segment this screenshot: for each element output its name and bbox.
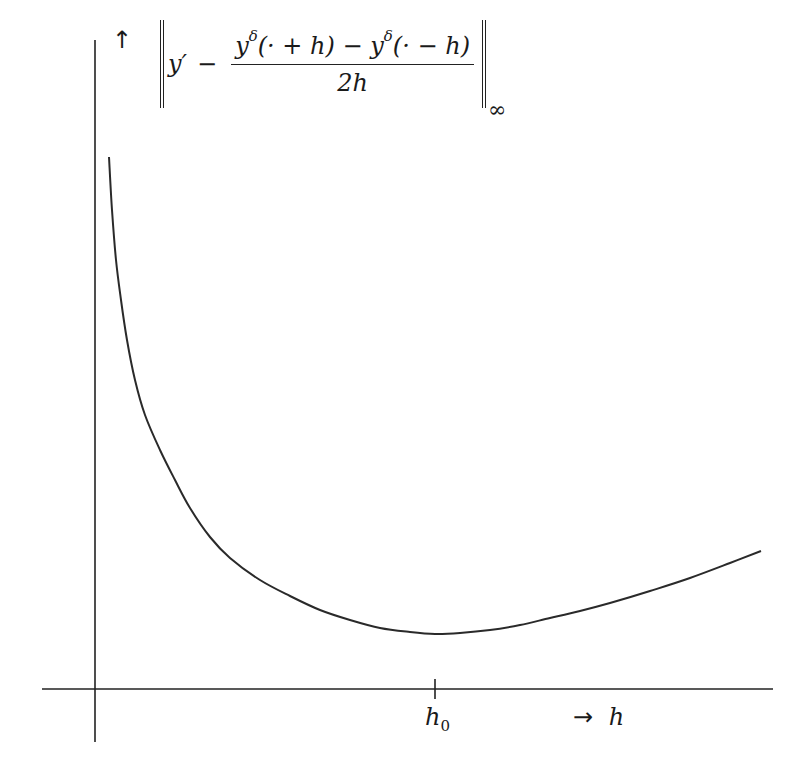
- h0-base: h: [425, 703, 440, 731]
- delta-sup-1: δ: [249, 27, 258, 45]
- y-axis-label: y′ − yδ(· + h) − yδ(· − h) 2h ∞: [156, 14, 506, 114]
- x-variable: h: [609, 703, 624, 731]
- numerator-shift-plus: (· + h) −: [258, 32, 371, 60]
- delta-sup-2: δ: [384, 27, 393, 45]
- x-axis-arrow-icon: →: [573, 703, 593, 731]
- denominator: 2h: [337, 65, 368, 97]
- difference-quotient: yδ(· + h) − yδ(· − h) 2h: [231, 31, 474, 97]
- norm-right-bars: [482, 20, 486, 108]
- numerator-y1: y: [235, 32, 249, 60]
- h0-label: h0: [425, 703, 450, 735]
- h0-subscript: 0: [440, 717, 450, 735]
- y-prime: y′: [168, 50, 187, 78]
- plot-canvas: [0, 0, 812, 784]
- minus-sign: −: [197, 50, 217, 78]
- y-axis-arrow-icon: ↑: [112, 26, 132, 54]
- norm-left-bars: [160, 20, 164, 108]
- numerator-y2: y: [370, 32, 384, 60]
- x-axis-label: → h: [573, 703, 624, 731]
- numerator-shift-minus: (· − h): [393, 32, 470, 60]
- error-curve: [109, 157, 761, 634]
- numerator: yδ(· + h) − yδ(· − h): [231, 31, 474, 65]
- infinity-subscript: ∞: [488, 97, 506, 122]
